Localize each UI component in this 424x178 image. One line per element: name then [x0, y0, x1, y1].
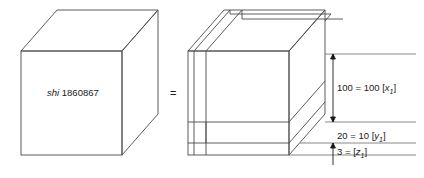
dimension-y-expression: 10 [358, 130, 369, 141]
left-cube-label: shi 1860867 [47, 88, 99, 98]
dimension-x-value: 100 [337, 82, 353, 93]
cube-decomposition-figure: shi 1860867 = 100 = 100 [x1] 20 = 10 [y1… [0, 0, 424, 178]
right-cube-wireframe [188, 10, 343, 155]
dimension-z-equals: = [345, 146, 351, 157]
equals-sign: = [170, 88, 176, 99]
dimension-label-z: 3 = [z1] [337, 147, 367, 159]
dimension-arrow-x [331, 54, 336, 122]
dimension-z-bracket-close: ] [364, 146, 367, 157]
dimension-x-expression: 100 [364, 82, 380, 93]
dimension-z-value: 3 [337, 146, 342, 157]
dimension-y-bracket-close: ] [383, 130, 386, 141]
dimension-arrow-z [331, 143, 336, 165]
dimension-label-y: 20 = 10 [y1] [337, 131, 386, 143]
dimension-x-equals: = [356, 82, 362, 93]
dimension-label-x: 100 = 100 [x1] [337, 83, 396, 95]
dimension-x-bracket-close: ] [394, 82, 397, 93]
left-cube-label-italic: shi [47, 87, 59, 98]
left-cube-label-value: 1860867 [62, 87, 99, 98]
dimension-y-equals: = [350, 130, 356, 141]
dimension-y-value: 20 [337, 130, 348, 141]
left-cube-wireframe [21, 10, 158, 155]
